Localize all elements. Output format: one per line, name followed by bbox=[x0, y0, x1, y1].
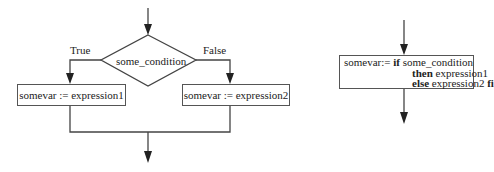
right-exit-arrowhead-icon bbox=[400, 112, 408, 124]
merge-line bbox=[70, 106, 230, 132]
assignment-prefix: somevar:= bbox=[344, 56, 393, 68]
true-arrowhead-icon bbox=[66, 73, 74, 84]
false-arrowhead-icon bbox=[226, 73, 234, 84]
entry-arrowhead-icon bbox=[144, 24, 152, 35]
exit-arrowhead-icon bbox=[144, 151, 152, 163]
if-keyword: if bbox=[393, 56, 400, 68]
false-label: False bbox=[203, 44, 226, 56]
else-keyword: else bbox=[412, 77, 429, 89]
expression-line-3: else expression2 fi bbox=[344, 78, 469, 89]
true-label: True bbox=[70, 44, 90, 56]
false-branch-line bbox=[196, 60, 230, 74]
fi-keyword: fi bbox=[487, 77, 494, 89]
else-expression: expression2 bbox=[429, 77, 487, 89]
true-assignment-box: somevar := expression1 bbox=[17, 84, 126, 106]
right-entry-arrowhead-icon bbox=[400, 44, 408, 55]
condition-label: some_condition bbox=[116, 55, 186, 67]
conditional-expression-box: somevar:= if some_condition then express… bbox=[339, 55, 474, 89]
false-assignment-box: somevar := expression2 bbox=[182, 84, 290, 106]
true-branch-line bbox=[70, 60, 101, 74]
